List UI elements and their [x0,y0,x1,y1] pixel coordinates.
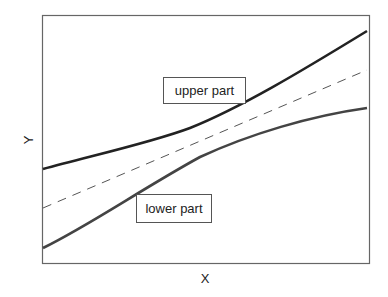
lower-part-annotation: lower part [137,195,212,223]
upper-part-label: upper part [175,83,235,98]
x-axis-label: X [201,271,210,286]
lower-part-label: lower part [145,201,202,216]
y-axis-label: Y [21,135,36,144]
lower-curve [43,108,367,248]
upper-part-annotation: upper part [164,78,246,104]
chart-canvas: upper part lower part X Y [0,0,388,297]
plot-frame [43,16,370,264]
